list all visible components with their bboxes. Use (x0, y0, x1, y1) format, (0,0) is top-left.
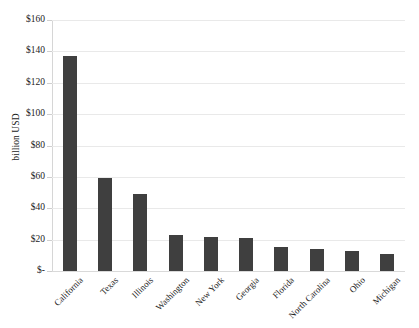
bar[interactable] (239, 238, 253, 271)
y-axis-tick-label: $60 (0, 171, 45, 181)
bar[interactable] (310, 249, 324, 271)
y-axis-tick-label: $20 (0, 234, 45, 244)
plot-area (52, 20, 405, 271)
y-axis-tick-label: $40 (0, 202, 45, 212)
bar[interactable] (204, 237, 218, 272)
y-axis-tick (47, 208, 52, 209)
y-axis-tick-label: $80 (0, 140, 45, 150)
y-axis-tick (47, 240, 52, 241)
bar[interactable] (345, 251, 359, 271)
bar[interactable] (380, 254, 394, 271)
y-axis-tick (47, 271, 52, 272)
gridline (52, 114, 405, 115)
gridline (52, 146, 405, 147)
y-axis-tick-label: $- (0, 265, 45, 275)
gridline (52, 271, 405, 272)
y-axis-tick-label: $140 (0, 45, 45, 55)
y-axis-tick (47, 20, 52, 21)
y-axis-tick (47, 177, 52, 178)
y-axis-tick (47, 114, 52, 115)
bar[interactable] (98, 178, 112, 271)
y-axis-tick-label: $160 (0, 14, 45, 24)
gridline (52, 83, 405, 84)
y-axis-tick (47, 51, 52, 52)
gridline (52, 20, 405, 21)
bar-chart: billion USD $-$20$40$60$80$100$120$140$1… (0, 0, 419, 328)
bar[interactable] (133, 194, 147, 271)
y-axis-tick-labels: $-$20$40$60$80$100$120$140$160 (0, 0, 45, 328)
y-axis-tick-label: $120 (0, 77, 45, 87)
y-axis-tick (47, 146, 52, 147)
bar[interactable] (169, 235, 183, 271)
bar[interactable] (274, 247, 288, 271)
y-axis-tick (47, 83, 52, 84)
bar[interactable] (63, 56, 77, 271)
gridline (52, 51, 405, 52)
y-axis-tick-label: $100 (0, 108, 45, 118)
